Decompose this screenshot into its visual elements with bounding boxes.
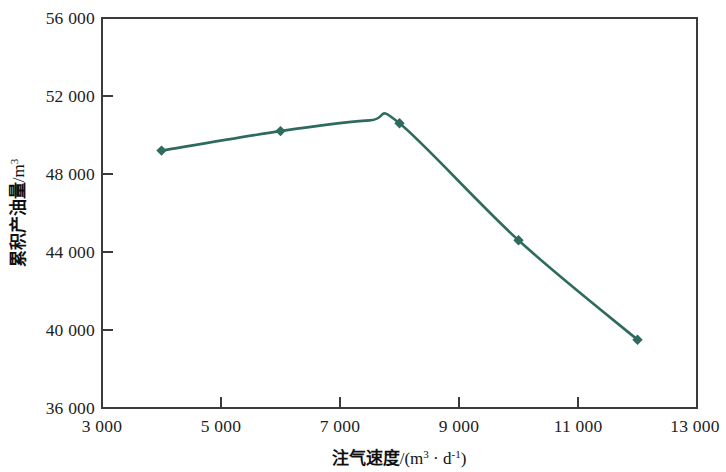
y-axis-title-unit: /m [9, 164, 28, 182]
x-axis-title-main: 注气速度 [332, 448, 401, 468]
y-tick-labels: 56 000 52 000 48 000 44 000 40 000 36 00… [46, 8, 95, 418]
y-tick-label-40000: 40 000 [46, 320, 95, 340]
y-axis-title-exponent: 3 [8, 158, 20, 164]
x-axis-title-unit-open: /(m [400, 449, 424, 468]
y-tick-label-52000: 52 000 [46, 86, 95, 106]
x-tick-label-11000: 11 000 [554, 416, 603, 436]
x-axis-title-unit-close: ) [461, 449, 467, 468]
y-axis-title: 累积产油量/m3 [8, 158, 28, 267]
x-axis-title: 注气速度/(m3 · d-1) [332, 448, 467, 468]
svg-text:累积产油量/m3: 累积产油量/m3 [8, 158, 28, 267]
x-tick-label-7000: 7 000 [320, 416, 360, 436]
x-tick-label-5000: 5 000 [201, 416, 241, 436]
y-tick-label-44000: 44 000 [46, 242, 95, 262]
line-chart-svg: 56 000 52 000 48 000 44 000 40 000 36 00… [0, 0, 726, 472]
x-axis-title-exponent-2: -1 [451, 448, 460, 460]
x-tick-label-9000: 9 000 [439, 416, 479, 436]
y-tick-label-36000: 36 000 [46, 398, 95, 418]
y-axis-title-main: 累积产油量 [8, 182, 28, 267]
x-tick-label-13000: 13 000 [670, 416, 719, 436]
x-axis-title-unit-mid: · d [429, 449, 452, 468]
plot-frame [102, 18, 697, 408]
chart-figure: 56 000 52 000 48 000 44 000 40 000 36 00… [0, 0, 726, 472]
x-tick-labels: 3 000 5 000 7 000 9 000 11 000 13 000 [82, 416, 720, 436]
y-tick-label-48000: 48 000 [46, 164, 95, 184]
svg-text:注气速度/(m3 · d-1): 注气速度/(m3 · d-1) [332, 448, 467, 468]
x-tick-label-3000: 3 000 [82, 416, 122, 436]
y-tick-label-56000: 56 000 [46, 8, 95, 28]
